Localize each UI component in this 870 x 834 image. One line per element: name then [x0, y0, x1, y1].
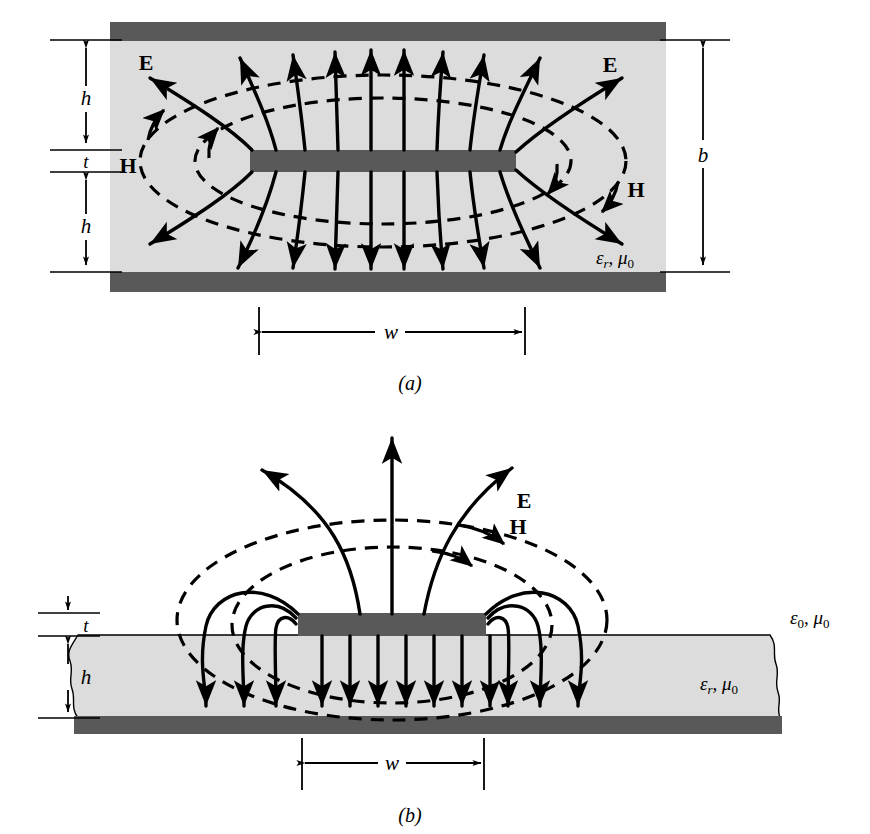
h-field-label-left-a: H [119, 153, 136, 178]
dimension-label-t-b: t [83, 615, 89, 636]
caption-panel-a: (a) [398, 372, 422, 395]
panel-a-right-dimensions [660, 40, 730, 272]
dimension-label-h-b: h [81, 665, 92, 689]
center-conductor-strip [250, 150, 516, 172]
dimension-label-h-lower: h [81, 214, 92, 238]
dimension-label-w-a: w [384, 320, 398, 344]
bottom-ground-plane [110, 272, 666, 292]
figure-container: h t h b w E E H H εr, μ0 [0, 0, 870, 834]
h-field-label-right-a: H [627, 177, 644, 202]
diagram-svg: h t h b w E E H H εr, μ0 [0, 0, 870, 834]
e-field-label-left-a: E [139, 50, 154, 75]
dimension-label-h-upper: h [81, 86, 92, 110]
panel-a-group: h t h b w E E H H εr, μ0 [50, 22, 730, 355]
caption-panel-b: (b) [398, 804, 422, 827]
e-field-label-right-a: E [603, 52, 618, 77]
panel-b-group: t h w E H ε0, μ0 εr, μ0 [38, 438, 830, 790]
e-field-label-b: E [517, 488, 532, 513]
e-field-lines-air [262, 438, 512, 614]
dimension-label-t: t [83, 151, 89, 172]
substrate-dielectric [69, 635, 780, 718]
material-label-air-b: ε0, μ0 [790, 607, 830, 631]
microstrip-ground-plane [74, 716, 782, 734]
h-field-label-b: H [509, 514, 526, 539]
dimension-label-b: b [698, 143, 709, 167]
top-ground-plane [110, 22, 666, 41]
dimension-label-w-b: w [385, 751, 399, 775]
signal-strip-conductor [298, 613, 486, 636]
